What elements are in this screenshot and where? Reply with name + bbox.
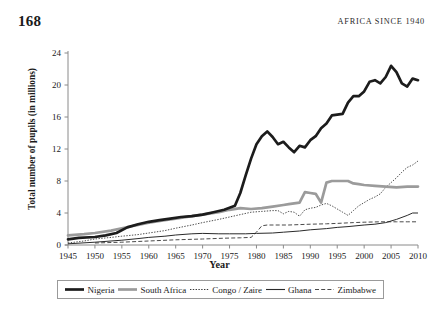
legend-item-nigeria[interactable]: Nigeria: [65, 285, 115, 295]
running-head-title: AFRICA SINCE 1940: [338, 17, 425, 26]
legend-item-ghana[interactable]: Ghana: [266, 285, 312, 295]
y-axis-tick-label: 8: [57, 176, 62, 186]
y-axis-tick-label: 16: [52, 112, 62, 122]
x-axis-tick-label: 1960: [140, 251, 159, 261]
x-axis-tick-label: 2000: [355, 251, 374, 261]
legend-label: Zimbabwe: [338, 285, 377, 295]
legend-label: Ghana: [288, 285, 312, 295]
legend-swatch-dotted-icon: [190, 285, 209, 294]
legend-swatch-dashed-icon: [315, 285, 334, 294]
x-axis-tick-label: 1980: [247, 251, 266, 261]
y-axis-tick-label: 20: [52, 80, 62, 90]
legend-label: Nigeria: [88, 285, 115, 295]
legend-item-zimbabwe[interactable]: Zimbabwe: [315, 285, 376, 295]
series-line-south-africa: [68, 181, 418, 235]
legend-swatch-solid-thick-icon: [118, 285, 137, 294]
x-axis-tick-label: 1970: [194, 251, 213, 261]
legend-item-south-africa[interactable]: South Africa: [118, 285, 186, 295]
legend-item-congo-zaire[interactable]: Congo / Zaire: [190, 285, 263, 295]
x-axis-tick-label: 1990: [301, 251, 320, 261]
x-axis-tick-label: 1975: [221, 251, 240, 261]
y-axis-tick-label: 24: [52, 48, 62, 58]
y-axis-tick-label: 4: [57, 208, 62, 218]
legend-label: Congo / Zaire: [212, 285, 262, 295]
page-folio-number: 168: [18, 13, 41, 30]
x-axis-tick-label: 2005: [382, 251, 401, 261]
chart-plot-area: 0481216202419451950195519601965197019751…: [0, 38, 439, 278]
y-axis-tick-label: 12: [52, 144, 61, 154]
x-axis-tick-label: 1945: [59, 251, 78, 261]
legend-swatch-solid-thick-icon: [65, 285, 84, 294]
legend-swatch-solid-thin-icon: [266, 285, 285, 294]
figure-line-chart: Total number of pupils (in millions) Yea…: [0, 38, 439, 312]
x-axis-tick-label: 1965: [167, 251, 186, 261]
x-axis-tick-label: 1995: [328, 251, 347, 261]
legend-label: South Africa: [140, 285, 186, 295]
x-axis-tick-label: 1955: [113, 251, 132, 261]
x-axis-tick-label: 1985: [274, 251, 293, 261]
page: 168 AFRICA SINCE 1940 Total number of pu…: [0, 0, 439, 312]
chart-legend: NigeriaSouth AfricaCongo / ZaireGhanaZim…: [57, 280, 384, 299]
series-line-nigeria: [68, 66, 418, 240]
y-axis-tick-label: 0: [57, 240, 62, 250]
x-axis-tick-label: 1950: [86, 251, 105, 261]
x-axis-tick-label: 2010: [409, 251, 428, 261]
